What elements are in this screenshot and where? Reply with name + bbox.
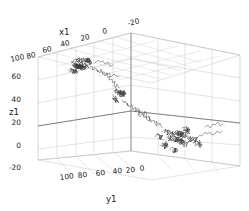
z-axis-title: z1 xyxy=(9,107,19,117)
x-tick-0: 0 xyxy=(101,26,108,36)
x-tick-minus20: -20 xyxy=(126,16,140,28)
z-tick-60: 60 xyxy=(12,72,22,81)
x-tick-20: 20 xyxy=(79,32,90,43)
y-tick-20: 20 xyxy=(125,165,136,175)
plot-3d-axes: 100 80 60 40 20 0 -20 60 40 20 0 -20 100… xyxy=(0,0,249,211)
y-tick-60: 60 xyxy=(95,168,106,178)
grid-group xyxy=(38,33,240,180)
x-tick-40: 40 xyxy=(59,38,70,49)
z-tick-minus20: -20 xyxy=(9,163,21,172)
z-axis-ticks: 60 40 20 0 -20 xyxy=(9,72,21,172)
z-tick-40: 40 xyxy=(12,95,22,104)
x-axis-ticks: 100 80 60 40 20 0 -20 xyxy=(9,16,140,64)
x-tick-100: 100 xyxy=(9,52,25,64)
right-wall-grid xyxy=(131,33,240,166)
random-walk-trajectory xyxy=(68,58,223,153)
y-tick-100: 100 xyxy=(59,171,74,182)
z-tick-20: 20 xyxy=(12,118,22,127)
z-tick-0: 0 xyxy=(16,141,21,150)
figure-canvas: 100 80 60 40 20 0 -20 60 40 20 0 -20 100… xyxy=(0,0,249,211)
y-tick-40: 40 xyxy=(112,166,123,176)
x-tick-80: 80 xyxy=(25,50,36,61)
x-axis-title: x1 xyxy=(59,27,70,37)
y-axis-title: y1 xyxy=(106,194,117,204)
x-tick-60: 60 xyxy=(41,44,52,55)
y-tick-80: 80 xyxy=(77,170,88,180)
zero-level-line xyxy=(38,111,131,126)
y-tick-0: 0 xyxy=(139,163,145,173)
